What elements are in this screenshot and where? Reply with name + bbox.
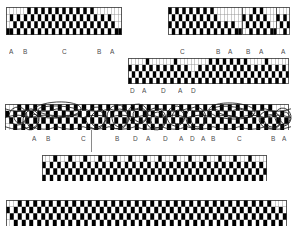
band-2-labels: CBA <box>168 47 245 57</box>
band-label-b: B <box>271 134 275 145</box>
band-1-labels: ABCBA <box>6 47 122 57</box>
band-label-a: A <box>179 134 183 145</box>
band-label-a: A <box>142 86 146 97</box>
band-label-a: A <box>32 134 36 145</box>
band-4-labels: A <box>276 47 290 57</box>
band-label-a: A <box>9 47 13 58</box>
band-label-d: D <box>130 86 135 97</box>
band-label-a: A <box>110 47 114 58</box>
band-label-a: A <box>281 47 285 58</box>
band-label-a: A <box>228 47 232 58</box>
section-divider <box>91 130 92 152</box>
band-label-d: D <box>163 134 168 145</box>
band-label-b: B <box>23 47 27 58</box>
band-label-b: B <box>216 47 220 58</box>
band-6-middle-braided <box>5 104 289 130</box>
band-label-a: A <box>146 134 150 145</box>
band-label-d: D <box>191 86 196 97</box>
band-label-a: A <box>282 134 286 145</box>
band-label-a: A <box>259 47 263 58</box>
band-label-b: B <box>211 134 215 145</box>
band-label-d: D <box>133 134 138 145</box>
band-label-c: C <box>237 134 242 145</box>
band-label-c: C <box>180 47 185 58</box>
band-6-labels: ABCBDADADABCBA <box>5 134 289 144</box>
band-3-labels: BA <box>242 47 277 57</box>
band-3-top-right <box>242 7 277 35</box>
band-label-d: D <box>161 86 166 97</box>
band-8-bottom <box>6 200 287 226</box>
band-label-c: C <box>62 47 67 58</box>
band-2-top-middle <box>168 7 245 35</box>
band-5-second-row <box>128 58 289 84</box>
band-7-fourth-row <box>42 155 267 181</box>
band-label-b: B <box>246 47 250 58</box>
figure-canvas: ABCBA CBA BA A DADAD ABCBDADADABCBA <box>0 0 293 240</box>
band-label-d: D <box>190 134 195 145</box>
band-label-a: A <box>201 134 205 145</box>
band-1-top-left <box>6 7 122 35</box>
band-label-a: A <box>178 86 182 97</box>
band-label-c: C <box>81 134 86 145</box>
band-label-b: B <box>115 134 119 145</box>
band-5-labels: DADAD <box>128 86 289 96</box>
band-label-b: B <box>97 47 101 58</box>
band-label-b: B <box>46 134 50 145</box>
band-4-top-far-right <box>276 7 290 35</box>
